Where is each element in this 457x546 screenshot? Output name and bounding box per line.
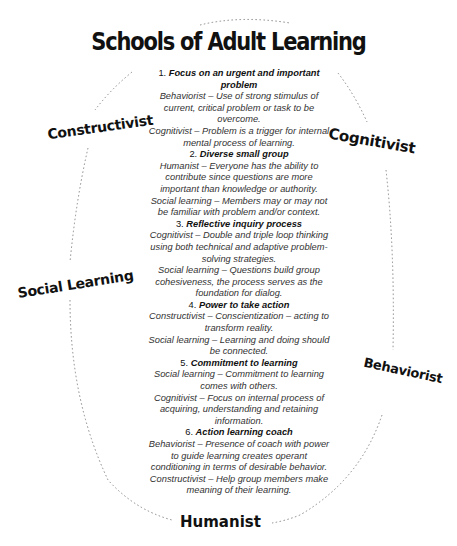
ellipse-arc-top [200, 19, 290, 25]
principle-line: Cognitivist – Double and triple loop thi… [148, 230, 330, 265]
principle-item: 1. Focus on an urgent and important prob… [148, 68, 330, 149]
principle-item: 5. Commitment to learning Social learnin… [148, 358, 330, 428]
principle-heading: 2. Diverse small group [148, 149, 330, 161]
principle-item: 2. Diverse small group Humanist – Everyo… [148, 149, 330, 219]
principle-line: Constructivist – Help group members make… [148, 474, 330, 497]
principle-line: Behaviorist – Presence of coach with pow… [148, 439, 330, 474]
principle-heading: 4. Power to take action [148, 300, 330, 312]
principle-line: Cognitivist – Focus on internal process … [148, 393, 330, 428]
principle-line: Social learning – Questions build group … [148, 265, 330, 300]
principle-number: 4. [189, 300, 197, 310]
principle-title: Diverse small group [200, 149, 289, 159]
ellipse-arc-top-left [95, 72, 132, 110]
principle-heading: 3. Reflective inquiry process [148, 219, 330, 231]
ellipse-arc-left-upper [70, 148, 88, 262]
principle-item: 3. Reflective inquiry process Cognitivis… [148, 219, 330, 300]
principle-title: Focus on an urgent and important problem [169, 68, 320, 90]
principle-item: 4. Power to take action Constructivist –… [148, 300, 330, 358]
principle-line: Constructivist – Conscientization – acti… [148, 311, 330, 334]
principle-line: Behaviorist – Use of strong stimulus of … [148, 91, 330, 126]
principle-line: Cognitivist – Problem is a trigger for i… [148, 126, 330, 149]
principle-line: Humanist – Everyone has the ability to c… [148, 161, 330, 196]
principle-number: 1. [158, 68, 166, 78]
ellipse-arc-right-upper [386, 170, 393, 350]
diagram-canvas: Schools of Adult Learning Constructivist… [0, 0, 457, 546]
principle-title: Reflective inquiry process [186, 219, 302, 229]
principle-line: Social learning – Members may or may not… [148, 196, 330, 219]
principle-title: Action learning coach [196, 427, 293, 437]
diagram-title: Schools of Adult Learning [0, 28, 457, 56]
ellipse-arc-top-right [338, 73, 367, 122]
principle-line: Social learning – Commitment to learning… [148, 369, 330, 392]
principle-number: 3. [176, 219, 184, 229]
principle-title: Commitment to learning [191, 358, 298, 368]
principle-heading: 5. Commitment to learning [148, 358, 330, 370]
principle-number: 6. [185, 427, 193, 437]
school-label-humanist: Humanist [180, 513, 261, 531]
principle-item: 6. Action learning coach Behaviorist – P… [148, 427, 330, 497]
principle-heading: 6. Action learning coach [148, 427, 330, 439]
principle-heading: 1. Focus on an urgent and important prob… [148, 68, 330, 91]
principle-line: Social learning – Learning and doing sho… [148, 335, 330, 358]
principle-title: Power to take action [199, 300, 289, 310]
principles-list: 1. Focus on an urgent and important prob… [148, 68, 330, 497]
principle-number: 2. [189, 149, 197, 159]
principle-number: 5. [180, 358, 188, 368]
